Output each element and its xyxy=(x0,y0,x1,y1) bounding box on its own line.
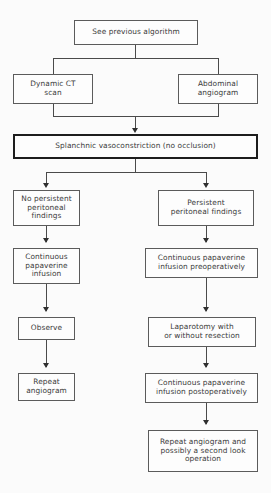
node-no-persistent-peritoneal-findings: No persistent peritoneal findings xyxy=(13,190,80,226)
arrowhead-left-1 xyxy=(43,238,49,243)
node-label: Splanchnic vasoconstriction (no occlusio… xyxy=(17,142,254,151)
node-label: Abdominal angiogram xyxy=(181,80,255,97)
node-label: Continuous papaverine infusion preoperat… xyxy=(148,254,255,271)
node-continuous-papaverine-infusion: Continuous papaverine infusion xyxy=(13,248,80,284)
node-label: No persistent peritoneal findings xyxy=(16,195,77,221)
connector-columns-split-bar xyxy=(46,172,206,173)
node-continuous-papaverine-infusion-postoperatively: Continuous papaverine infusion postopera… xyxy=(145,373,258,403)
connector-to-abdominal-angiogram xyxy=(218,58,219,74)
node-label: Observe xyxy=(21,324,72,333)
node-label: Persistent peritoneal findings xyxy=(161,199,251,216)
connector-splanchnic-stem xyxy=(135,159,136,172)
arrowhead-right-1 xyxy=(203,238,209,243)
arrowhead-left-2 xyxy=(43,307,49,312)
arrowhead-right-3 xyxy=(203,363,209,368)
node-abdominal-angiogram: Abdominal angiogram xyxy=(178,74,258,104)
node-label: Laparotomy with or without resection xyxy=(151,323,253,340)
connector-top-stem xyxy=(135,45,136,58)
arrowhead-right-4 xyxy=(203,420,209,425)
node-label: Continuous papaverine infusion postopera… xyxy=(148,379,255,396)
connector-top-split-bar xyxy=(53,58,218,59)
arrowhead-right-2 xyxy=(203,307,209,312)
connector-to-dynamic-ct xyxy=(53,58,54,74)
node-splanchnic-vasoconstriction: Splanchnic vasoconstriction (no occlusio… xyxy=(13,134,258,159)
node-observe: Observe xyxy=(18,317,75,340)
node-laparotomy-with-or-without-resection: Laparotomy with or without resection xyxy=(148,317,256,347)
flowchart-diagram: See previous algorithm Dynamic CT scan A… xyxy=(0,0,271,493)
node-see-previous-algorithm: See previous algorithm xyxy=(74,20,198,45)
connector-dynamic-ct-down xyxy=(53,104,54,116)
arrowhead-to-splanchnic xyxy=(132,128,138,133)
node-repeat-angiogram: Repeat angiogram xyxy=(18,373,75,401)
node-label: Repeat angiogram xyxy=(21,378,72,395)
node-label: Continuous papaverine infusion xyxy=(16,253,77,279)
arrowhead-to-persistent xyxy=(203,183,209,188)
arrowhead-left-3 xyxy=(43,363,49,368)
node-persistent-peritoneal-findings: Persistent peritoneal findings xyxy=(158,190,254,226)
connector-merge-bar xyxy=(53,116,219,117)
node-repeat-angiogram-second-look: Repeat angiogram and possibly a second l… xyxy=(148,430,258,472)
node-dynamic-ct-scan: Dynamic CT scan xyxy=(13,74,93,104)
node-label: See previous algorithm xyxy=(77,28,195,37)
arrowhead-to-no-persistent xyxy=(43,183,49,188)
node-label: Dynamic CT scan xyxy=(16,80,90,97)
node-continuous-papaverine-infusion-preoperatively: Continuous papaverine infusion preoperat… xyxy=(145,248,258,278)
connector-abdominal-angiogram-down xyxy=(218,104,219,116)
node-label: Repeat angiogram and possibly a second l… xyxy=(151,438,255,464)
